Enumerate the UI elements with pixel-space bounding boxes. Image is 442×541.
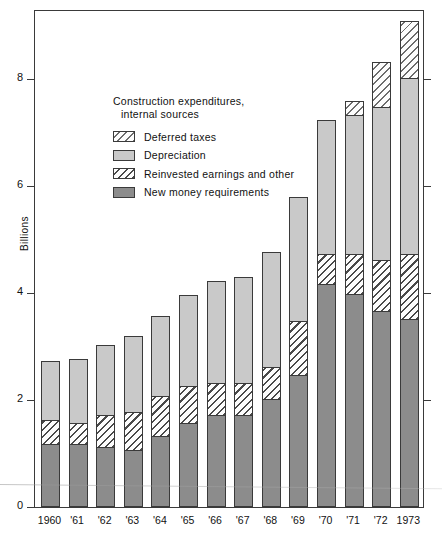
segment-depreciation [345, 115, 364, 255]
legend-items: Deferred taxesDepreciationReinvested ear… [113, 129, 294, 200]
deferred-taxes-swatch [113, 131, 135, 142]
legend-item: Deferred taxes [113, 129, 294, 144]
bar-70 [317, 9, 336, 507]
segment-depreciation [262, 252, 281, 368]
segment-new-money [262, 399, 281, 507]
legend-item: Depreciation [113, 148, 294, 163]
y-tick-label: 2 [0, 393, 23, 404]
segment-depreciation [69, 359, 88, 424]
bar-69 [289, 9, 308, 507]
segment-new-money [124, 450, 143, 507]
segment-reinvested-earnings [289, 321, 308, 376]
segment-new-money [151, 436, 170, 507]
segment-new-money [345, 294, 364, 507]
segment-depreciation [400, 78, 419, 256]
y-tick-mark [27, 186, 34, 187]
segment-reinvested-earnings [317, 254, 336, 284]
segment-reinvested-earnings [179, 386, 198, 424]
y-axis-title: Billions [19, 194, 30, 274]
legend-item-label: Deferred taxes [144, 131, 216, 143]
y-tick-mark [27, 293, 34, 294]
bar-66 [207, 9, 226, 507]
bar-67 [234, 9, 253, 507]
legend-title-line-2: internal sources [113, 108, 294, 121]
segment-deferred-taxes [400, 21, 419, 78]
segment-reinvested-earnings [234, 383, 253, 416]
segment-reinvested-earnings [151, 396, 170, 437]
bar-1973 [400, 9, 419, 507]
segment-reinvested-earnings [262, 367, 281, 400]
legend-item: New money requirements [113, 185, 294, 200]
bar-64 [151, 9, 170, 507]
new-money-swatch [113, 187, 135, 198]
legend-item-label: Depreciation [144, 149, 206, 161]
legend-item-label: New money requirements [144, 186, 269, 198]
depreciation-swatch [113, 150, 135, 161]
legend-item: Reinvested earnings and other [113, 166, 294, 181]
bar-72 [372, 9, 391, 507]
segment-new-money [41, 444, 60, 507]
y-tick-label: 0 [0, 500, 23, 511]
legend-title: Construction expenditures, internal sour… [113, 95, 294, 121]
y-tick-mark [27, 507, 34, 508]
segment-deferred-taxes [372, 62, 391, 109]
y-tick-mark [424, 79, 431, 80]
segment-depreciation [372, 107, 391, 261]
bar-63 [124, 9, 143, 507]
segment-deferred-taxes [345, 101, 364, 116]
segment-depreciation [96, 345, 115, 416]
bar-61 [69, 9, 88, 507]
segment-new-money [179, 423, 198, 507]
segment-reinvested-earnings [400, 254, 419, 319]
legend-title-line-1: Construction expenditures, [113, 95, 244, 107]
y-tick-mark [27, 400, 34, 401]
segment-depreciation [207, 281, 226, 384]
segment-reinvested-earnings [345, 254, 364, 295]
segment-depreciation [179, 295, 198, 387]
legend-item-label: Reinvested earnings and other [144, 168, 294, 180]
segment-new-money [234, 415, 253, 507]
bar-71 [345, 9, 364, 507]
y-tick-label: 4 [0, 286, 23, 297]
y-tick-label: 6 [0, 179, 23, 190]
segment-reinvested-earnings [207, 383, 226, 416]
segment-new-money [289, 375, 308, 507]
segment-depreciation [124, 336, 143, 414]
bar-1960 [41, 9, 60, 507]
y-tick-mark [424, 186, 431, 187]
segment-new-money [96, 447, 115, 507]
bar-62 [96, 9, 115, 507]
segment-reinvested-earnings [41, 420, 60, 445]
segment-new-money [207, 415, 226, 507]
bar-65 [179, 9, 198, 507]
chart-legend: Construction expenditures, internal sour… [113, 95, 294, 203]
segment-depreciation [151, 316, 170, 397]
segment-new-money [69, 444, 88, 507]
stacked-bar-chart: Billions 02468 Construction expenditures… [0, 0, 442, 541]
y-tick-mark [424, 400, 431, 401]
segment-reinvested-earnings [69, 423, 88, 445]
segment-new-money [372, 311, 391, 507]
segment-depreciation [289, 197, 308, 323]
segment-depreciation [234, 277, 253, 384]
segment-reinvested-earnings [372, 260, 391, 312]
segment-depreciation [41, 361, 60, 421]
segment-reinvested-earnings [124, 412, 143, 450]
plot-area: Construction expenditures, internal sour… [34, 10, 424, 508]
x-axis-label-1973: 1973 [390, 514, 426, 526]
segment-reinvested-earnings [96, 415, 115, 448]
y-tick-mark [424, 293, 431, 294]
y-tick-label: 8 [0, 72, 23, 83]
bar-68 [262, 9, 281, 507]
segment-new-money [317, 284, 336, 507]
segment-depreciation [317, 120, 336, 255]
y-tick-mark [27, 79, 34, 80]
reinvested-earnings-swatch [113, 168, 135, 179]
segment-new-money [400, 319, 419, 507]
